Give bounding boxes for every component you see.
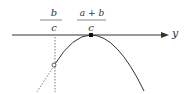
parabola-curve <box>55 35 144 91</box>
peak-denominator: c <box>85 23 97 33</box>
peak-marker <box>89 33 93 37</box>
arrow-head-icon <box>161 32 169 38</box>
open-circle-marker <box>52 63 56 67</box>
left-numerator: b <box>48 8 60 18</box>
axis-label: y <box>170 29 180 39</box>
peak-numerator: a + b <box>76 8 108 18</box>
dotted-extension <box>37 66 54 92</box>
left-denominator: c <box>48 23 60 33</box>
